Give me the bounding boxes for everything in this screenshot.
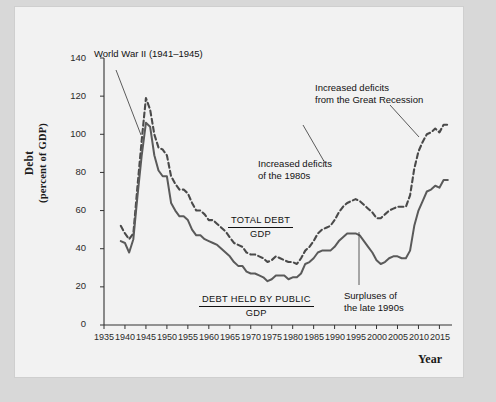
plot-area [0,0,496,402]
series-label-total-debt-numerator: TOTAL DEBT [228,215,293,228]
chart-page: Debt (percent of GDP) Year 140 120 100 8… [0,0,496,402]
annotation-deficits-1980s: Increased deficits of the 1980s [258,158,332,181]
series-group [121,98,448,281]
y-tick-marks [100,58,104,325]
annotation-surpluses-1990s: Surpluses of the late 1990s [344,290,404,313]
leader-great-recession [390,105,419,137]
series-label-public-debt-denominator: GDP [199,307,314,319]
annotation-great-recession: Increased deficits from the Great Recess… [315,82,423,105]
series-line [121,123,448,281]
annotation-world-war-2: World War II (1941–1945) [94,48,203,60]
leader-world-war-2 [116,70,141,135]
debt-gdp-chart: Debt (percent of GDP) Year 140 120 100 8… [0,0,496,402]
series-label-total-debt: TOTAL DEBT GDP [228,215,293,240]
x-tick-marks [104,325,439,329]
series-label-total-debt-denominator: GDP [228,228,293,240]
series-label-public-debt-numerator: DEBT HELD BY PUBLIC [199,294,314,307]
series-label-public-debt: DEBT HELD BY PUBLIC GDP [199,294,314,319]
